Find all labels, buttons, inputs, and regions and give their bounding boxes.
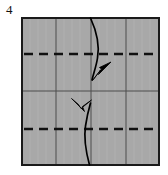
origami-step-figure: 4 [0, 0, 168, 175]
origami-diagram-canvas [0, 0, 168, 175]
